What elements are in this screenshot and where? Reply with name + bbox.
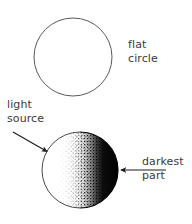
label-flat-circle-line2: circle bbox=[128, 52, 158, 66]
label-light-source-line2: source bbox=[7, 112, 44, 126]
flat-circle-shape bbox=[34, 18, 112, 96]
label-light-source: light source bbox=[7, 98, 44, 125]
light-source-arrow bbox=[13, 132, 47, 152]
label-flat-circle-line1: flat bbox=[128, 38, 158, 52]
label-darkest-part-line2: part bbox=[142, 169, 184, 183]
label-darkest-part-line1: darkest bbox=[142, 155, 184, 169]
label-flat-circle: flat circle bbox=[128, 38, 158, 65]
diagram-canvas: flat circle light source darkest part bbox=[0, 0, 192, 224]
label-light-source-line1: light bbox=[7, 98, 44, 112]
shaded-sphere-shape bbox=[42, 132, 125, 208]
label-darkest-part: darkest part bbox=[142, 155, 184, 182]
